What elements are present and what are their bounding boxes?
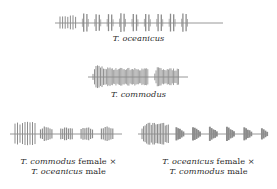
caption-oceanicus: T. oceanicus bbox=[0, 33, 277, 43]
waveform-hybrid-commodus-female bbox=[0, 112, 139, 158]
species-name-male: T. oceanicus bbox=[31, 166, 83, 176]
species-name-female: T. oceanicus bbox=[162, 156, 214, 166]
species-name-male: T. commodus bbox=[169, 166, 224, 176]
cross-suffix-male: male bbox=[83, 166, 106, 176]
species-name: T. commodus bbox=[111, 89, 166, 99]
cross-suffix-female: female × bbox=[76, 156, 117, 166]
caption-hybrid-commodus-female: T. commodus female × T. oceanicus male bbox=[0, 156, 137, 177]
caption-hybrid-oceanicus-female: T. oceanicus female × T. commodus male bbox=[140, 156, 277, 177]
species-name: T. oceanicus bbox=[113, 33, 165, 43]
cross-suffix-female: female × bbox=[214, 156, 255, 166]
caption-commodus: T. commodus bbox=[0, 89, 277, 99]
waveform-hybrid-oceanicus-female bbox=[138, 112, 277, 158]
cross-suffix-male: male bbox=[224, 166, 247, 176]
oscillogram-figure: T. oceanicus T. commodus T. commodus fem… bbox=[0, 0, 277, 189]
species-name-female: T. commodus bbox=[21, 156, 76, 166]
